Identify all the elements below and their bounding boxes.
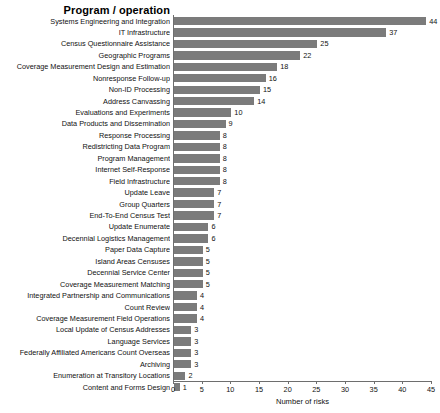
x-tick [431,381,432,384]
x-tick-label: 20 [284,385,292,394]
bar-row: Systems Engineering and Integration44 [0,16,440,27]
bar [174,269,203,277]
category-label: Redistricting Data Program [0,141,170,152]
bar-row: IT Infrastructure37 [0,27,440,38]
category-label: Internet Self-Response [0,164,170,175]
bar [174,337,191,345]
bar-value-label: 22 [303,50,311,61]
bar-row: Data Products and Dissemination9 [0,118,440,129]
bar-value-label: 8 [223,141,227,152]
bar [174,246,203,254]
bar-value-label: 18 [280,61,288,72]
bar-value-label: 2 [188,370,192,381]
bar-row: Coverage Measurement Design and Estimati… [0,61,440,72]
category-label: Language Services [0,336,170,347]
x-tick-label: 45 [427,385,435,394]
x-tick [173,381,174,384]
category-label: Content and Forms Design [0,382,170,393]
chart-title: Program / operation [0,4,170,16]
bar-row: Local Update of Census Addresses3 [0,324,440,335]
bar-value-label: 3 [194,324,198,335]
bar [174,291,197,299]
bar-value-label: 5 [206,267,210,278]
bar [174,131,220,139]
category-label: Update Enumerate [0,221,170,232]
bar-value-label: 7 [217,199,221,210]
bar-value-label: 4 [200,302,204,313]
bar-row: Internet Self-Response8 [0,164,440,175]
bar-value-label: 1 [183,382,187,393]
x-tick [402,381,403,384]
category-label: Nonresponse Follow-up [0,73,170,84]
bar [174,326,191,334]
bar-row: Non-ID Processing15 [0,84,440,95]
bar-value-label: 8 [223,130,227,141]
bar-value-label: 7 [217,210,221,221]
bar-value-label: 16 [269,73,277,84]
x-tick [288,381,289,384]
bar-value-label: 6 [211,221,215,232]
bar [174,143,220,151]
x-tick [202,381,203,384]
category-label: Group Quarters [0,199,170,210]
bar-row: Enumeration at Transitory Locations2 [0,370,440,381]
x-tick [230,381,231,384]
bar-value-label: 5 [206,279,210,290]
category-label: Decennial Logistics Management [0,233,170,244]
category-label: Decennial Service Center [0,267,170,278]
bar-row: Program Management8 [0,153,440,164]
x-axis-label: Number of risks [173,397,432,406]
bar-chart: Program / operation Systems Engineering … [0,0,440,413]
category-label: Integrated Partnership and Communication… [0,290,170,301]
bar-row: Decennial Service Center5 [0,267,440,278]
category-label: Data Products and Dissemination [0,118,170,129]
category-label: Coverage Measurement Matching [0,279,170,290]
category-label: Federally Affiliated Americans Count Ove… [0,347,170,358]
bar [174,166,220,174]
bar-row: Update Enumerate6 [0,221,440,232]
bar [174,234,208,242]
category-label: Address Canvassing [0,96,170,107]
category-label: Update Leave [0,187,170,198]
bar-row: Update Leave7 [0,187,440,198]
bar [174,97,254,105]
bar-row: Nonresponse Follow-up16 [0,73,440,84]
category-label: Program Management [0,153,170,164]
bar [174,303,197,311]
bar-row: Integrated Partnership and Communication… [0,290,440,301]
category-label: Coverage Measurement Field Operations [0,313,170,324]
bar [174,314,197,322]
bar [174,28,386,36]
bar-value-label: 5 [206,244,210,255]
bar-row: Address Canvassing14 [0,96,440,107]
category-label: Paper Data Capture [0,244,170,255]
bar [174,74,266,82]
x-tick [316,381,317,384]
bar-row: Paper Data Capture5 [0,244,440,255]
bar-row: Field Infrastructure8 [0,176,440,187]
x-tick [345,381,346,384]
bar [174,211,214,219]
category-label: Island Areas Censuses [0,256,170,267]
bar-value-label: 10 [234,107,242,118]
bar [174,280,203,288]
x-tick [374,381,375,384]
bar-value-label: 3 [194,359,198,370]
bar-row: Language Services3 [0,336,440,347]
bar-row: Island Areas Censuses5 [0,256,440,267]
bar-row: Response Processing8 [0,130,440,141]
bar-row: Archiving3 [0,359,440,370]
bar [174,349,191,357]
category-label: Count Review [0,302,170,313]
x-tick [259,381,260,384]
bar [174,223,208,231]
bar-value-label: 15 [263,84,271,95]
x-tick-label: 10 [226,385,234,394]
bar-row: Decennial Logistics Management6 [0,233,440,244]
bar [174,257,203,265]
category-label: Coverage Measurement Design and Estimati… [0,61,170,72]
bar-row: Redistricting Data Program8 [0,141,440,152]
bar-value-label: 4 [200,313,204,324]
x-tick-label: 5 [200,385,204,394]
bar [174,360,191,368]
